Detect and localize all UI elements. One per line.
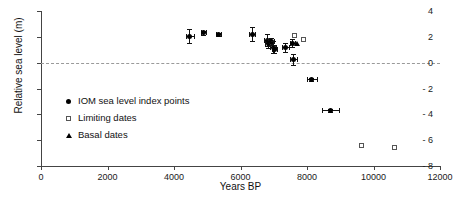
- y-tick-label: - 8: [422, 162, 433, 171]
- legend-marker: [62, 129, 78, 141]
- legend-item: IOM sea level index points: [62, 92, 189, 109]
- y-tick-label: - 2: [422, 84, 433, 93]
- error-bar-cap: [194, 34, 195, 39]
- legend-marker: [62, 95, 78, 107]
- marker-filled-triangle: [294, 41, 300, 46]
- marker-filled-circle: [291, 57, 296, 62]
- error-bar-cap: [297, 57, 298, 62]
- error-bar-cap: [250, 27, 255, 28]
- legend-item: Basal dates: [62, 126, 189, 143]
- y-tick-label: - 4: [422, 110, 433, 119]
- y-tick-mark: [37, 89, 41, 90]
- error-bar-cap: [283, 43, 288, 44]
- x-tick-mark: [307, 166, 308, 170]
- y-axis-line: [41, 11, 42, 166]
- marker-open-square: [66, 116, 71, 121]
- y-tick-mark: [37, 114, 41, 115]
- y-axis-title: Relative sea level (m): [13, 0, 24, 141]
- error-bar-cap: [250, 41, 255, 42]
- marker-open-square: [392, 145, 397, 150]
- error-bar-cap: [339, 108, 340, 113]
- error-bar-cap: [187, 43, 192, 44]
- x-tick-mark: [440, 166, 441, 170]
- marker-filled-circle: [272, 47, 277, 52]
- marker-filled-circle: [250, 32, 255, 37]
- legend-label: IOM sea level index points: [78, 95, 189, 106]
- error-bar-cap: [291, 65, 296, 66]
- chart-legend: IOM sea level index pointsLimiting dates…: [62, 92, 189, 143]
- error-bar-cap: [322, 108, 323, 113]
- legend-marker: [62, 112, 78, 124]
- marker-open-square: [301, 37, 306, 42]
- y-tick-label: 0: [428, 58, 433, 67]
- marker-open-square: [292, 33, 297, 38]
- x-tick-mark: [41, 166, 42, 170]
- error-bar-cap: [317, 77, 318, 82]
- zero-reference-line: [41, 63, 440, 64]
- legend-item: Limiting dates: [62, 109, 189, 126]
- error-bar-cap: [283, 52, 288, 53]
- y-tick-label: 2: [428, 32, 433, 41]
- error-bar-cap: [265, 34, 270, 35]
- x-tick-mark: [374, 166, 375, 170]
- y-tick-label: 4: [428, 7, 433, 16]
- error-bar-cap: [271, 41, 276, 42]
- y-tick-label: - 6: [422, 136, 433, 145]
- relative-sea-level-scatter-chart: 420- 2- 4- 6- 8 020004000600080001000012…: [0, 0, 455, 197]
- y-tick-mark: [37, 140, 41, 141]
- legend-label: Basal dates: [78, 129, 128, 140]
- error-bar-cap: [187, 29, 192, 30]
- marker-filled-triangle: [66, 133, 72, 138]
- marker-filled-circle: [328, 108, 333, 113]
- marker-filled-circle: [187, 34, 192, 39]
- x-axis-title: Years BP: [41, 181, 440, 192]
- x-tick-mark: [108, 166, 109, 170]
- y-tick-mark: [37, 63, 41, 64]
- error-bar-cap: [290, 47, 295, 48]
- legend-label: Limiting dates: [78, 112, 137, 123]
- x-tick-mark: [174, 166, 175, 170]
- marker-open-square: [359, 143, 364, 148]
- error-bar-cap: [272, 53, 277, 54]
- x-tick-mark: [241, 166, 242, 170]
- error-bar-cap: [255, 32, 256, 37]
- error-bar-cap: [291, 54, 296, 55]
- marker-filled-circle: [283, 45, 288, 50]
- marker-filled-circle: [66, 99, 71, 104]
- y-tick-mark: [37, 37, 41, 38]
- y-tick-mark: [37, 11, 41, 12]
- error-bar-cap: [277, 47, 278, 52]
- error-bar-cap: [307, 77, 308, 82]
